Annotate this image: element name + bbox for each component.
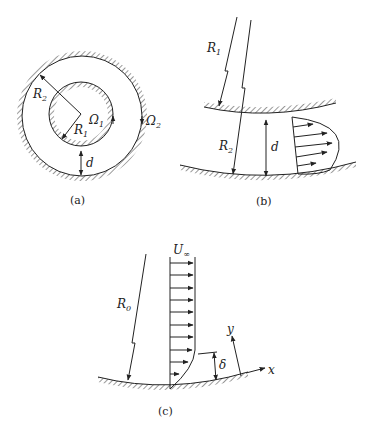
r2-radius-line: [233, 20, 251, 174]
outer-wall-hatch: [17, 51, 147, 181]
panel-a: R2 R1 Ω1 Ω2 d (a): [17, 51, 161, 207]
label-r2: R2: [218, 139, 233, 155]
outer-cylinder: [22, 56, 142, 176]
lower-wall-hatch: [180, 162, 356, 180]
label-delta: δ: [219, 358, 226, 372]
velocity-arrows: [170, 263, 193, 374]
x-axis-arrow: [246, 368, 265, 373]
label-d: d: [86, 156, 94, 170]
surface-hatch: [98, 372, 248, 390]
velocity-arrow: [295, 143, 332, 147]
panel-b: R1 R2 d (b): [180, 17, 356, 208]
label-d: d: [271, 140, 279, 154]
label-r0: R0: [116, 297, 131, 313]
delta-arrow: [214, 353, 216, 380]
panel-c: U∞ R0 δ x y (c): [98, 243, 275, 418]
velocity-profile: [170, 257, 195, 389]
caption-b: (b): [256, 195, 272, 208]
velocity-arrow: [293, 124, 313, 127]
figure-canvas: R2 R1 Ω1 Ω2 d (a) R1 R2 d (b): [0, 0, 374, 425]
velocity-arrow: [297, 163, 316, 166]
caption-c: (c): [158, 405, 173, 418]
label-omega2: Ω2: [145, 114, 161, 130]
caption-a: (a): [70, 194, 85, 207]
y-axis-arrow: [232, 336, 241, 376]
velocity-arrow: [294, 133, 327, 137]
profile-base-line: [292, 117, 298, 174]
label-r1: R1: [206, 41, 221, 57]
label-x: x: [268, 363, 275, 377]
label-r1: R1: [73, 123, 88, 139]
label-omega1: Ω1: [88, 113, 104, 129]
r0-radius-line: [128, 254, 146, 380]
label-y: y: [226, 322, 234, 336]
r1-radius-line: [219, 17, 237, 106]
velocity-arrow: [296, 152, 327, 157]
label-r2: R2: [32, 87, 47, 103]
label-u-infinity: U∞: [173, 243, 190, 259]
